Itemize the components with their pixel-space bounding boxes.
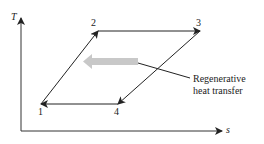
annotation-line1: Regenerative xyxy=(193,73,246,85)
regenerative-annotation: Regenerative heat transfer xyxy=(193,73,246,97)
process-3-4 xyxy=(118,31,200,104)
t-axis-label: T xyxy=(11,12,17,22)
process-1-2 xyxy=(41,31,98,104)
point-2-label: 2 xyxy=(91,18,96,28)
s-axis-label: s xyxy=(226,125,230,135)
annotation-leader xyxy=(138,63,190,78)
regenerative-arrow-icon xyxy=(83,54,138,69)
point-3-label: 3 xyxy=(196,18,201,28)
ts-diagram xyxy=(0,0,264,144)
annotation-line2: heat transfer xyxy=(193,85,246,97)
point-1-label: 1 xyxy=(38,107,43,117)
point-4-label: 4 xyxy=(114,107,119,117)
